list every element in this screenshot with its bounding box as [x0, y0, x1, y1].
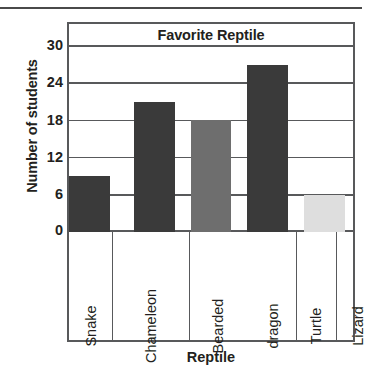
x-label-cell-turtle: Turtle [297, 232, 337, 340]
x-tick-label: dragon [265, 303, 281, 348]
chart-title-band: Favorite Reptile [69, 24, 353, 46]
plot-area: 0612182430 [69, 46, 353, 232]
bar-bearded-dragon [191, 120, 232, 232]
chart-title: Favorite Reptile [157, 27, 264, 43]
y-tick-label: 30 [47, 37, 63, 53]
bar-chameleon [134, 102, 175, 232]
y-tick-label: 6 [55, 186, 63, 202]
chart-frame: Favorite Reptile 0612182430 SnakeChamele… [67, 22, 355, 342]
x-tick-label: Snake [83, 305, 99, 346]
x-label-cell-bearded-dragon: Beardeddragon [190, 232, 297, 340]
y-tick-label: 0 [55, 222, 63, 238]
y-tick-label: 24 [47, 74, 63, 90]
bar-snake [69, 176, 110, 232]
y-axis-title: Number of students [24, 31, 40, 221]
x-label-cell-snake: Snake [69, 232, 113, 340]
bar-turtle [247, 65, 288, 232]
x-tick-label: Turtle [309, 308, 325, 345]
y-tick-label: 18 [47, 111, 63, 127]
x-label-cell-lizard: Lizard [337, 232, 377, 340]
x-axis-title: Reptile [67, 349, 355, 365]
x-label-cell-chameleon: Chameleon [113, 232, 190, 340]
x-tick-label: Bearded [211, 299, 227, 354]
bars-group [69, 46, 353, 232]
top-divider-rule [0, 7, 362, 9]
x-tick-label: Lizard [350, 306, 366, 346]
x-axis-label-band: SnakeChameleonBeardeddragonTurtleLizard [69, 232, 353, 340]
y-tick-label: 12 [47, 149, 63, 165]
bar-lizard [304, 195, 345, 232]
